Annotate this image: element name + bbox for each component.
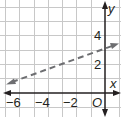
- x-tick-label-neg4: −4: [35, 95, 50, 110]
- y-tick-label-2: 2: [94, 57, 101, 72]
- y-axis-label: y: [107, 1, 116, 16]
- origin-label: O: [92, 95, 102, 110]
- coordinate-graph: y x O 4 2 −6 −4 −2: [0, 0, 121, 117]
- x-axis-label: x: [109, 76, 117, 91]
- y-tick-label-4: 4: [94, 28, 101, 43]
- line-left-arrow-icon: [6, 79, 16, 85]
- x-tick-label-neg6: −6: [6, 95, 21, 110]
- y-axis: [102, 1, 108, 117]
- line-right-arrow-icon: [110, 43, 119, 49]
- y-axis-down-arrow-icon: [102, 109, 108, 117]
- x-tick-label-neg2: −2: [63, 95, 78, 110]
